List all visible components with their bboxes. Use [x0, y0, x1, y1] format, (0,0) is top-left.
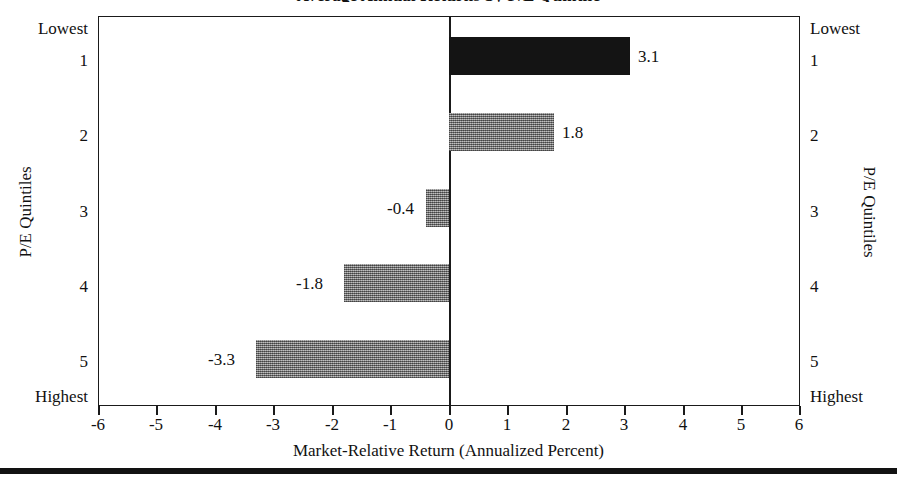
plot-area: [98, 16, 800, 406]
bar-quintile-5: [256, 340, 449, 378]
x-axis-tick-label: -3: [253, 416, 293, 433]
x-axis-tick: [156, 406, 158, 415]
x-axis-tick-label: -1: [370, 416, 410, 433]
x-axis-tick: [566, 406, 568, 415]
bar-quintile-1: [449, 37, 630, 75]
chart-title-clipped: Average Annual Returns by P/E Quintile: [0, 0, 897, 2]
y-axis-title-right: P/E Quintiles: [859, 152, 879, 272]
x-axis-tick: [624, 406, 626, 415]
x-axis-tick-label: 5: [721, 416, 761, 433]
x-axis-tick-label: 2: [546, 416, 586, 433]
bar-value-label-4: -1.8: [296, 275, 323, 292]
x-axis-tick: [741, 406, 743, 415]
bar-quintile-2: [449, 113, 554, 151]
y-axis-title-left: P/E Quintiles: [16, 152, 36, 272]
y-axis-right-label-2: 2: [810, 127, 897, 144]
bar-value-label-1: 3.1: [638, 48, 659, 65]
bar-quintile-4: [344, 264, 449, 302]
y-axis-left-label-1: 1: [0, 52, 88, 69]
y-axis-left-label-3: 3: [0, 203, 88, 220]
y-axis-left-label-2: 2: [0, 127, 88, 144]
x-axis-tick-label: 3: [604, 416, 644, 433]
x-axis-tick: [449, 406, 451, 415]
bar-value-label-5: -3.3: [208, 351, 235, 368]
footer-divider: [0, 468, 897, 474]
x-axis-tick: [390, 406, 392, 415]
x-axis-tick: [273, 406, 275, 415]
bar-value-label-3: -0.4: [387, 200, 414, 217]
y-axis-left-label-lowest: Lowest: [0, 20, 88, 37]
y-axis-right-label-1: 1: [810, 52, 897, 69]
y-axis-left-label-highest: Highest: [0, 388, 88, 405]
y-axis-right-label-5: 5: [810, 353, 897, 370]
x-axis-tick: [683, 406, 685, 415]
x-axis-tick-label: 6: [779, 416, 819, 433]
y-axis-right-label-4: 4: [810, 278, 897, 295]
y-axis-right-label-highest: Highest: [810, 388, 897, 405]
x-axis-tick-label: 4: [663, 416, 703, 433]
y-axis-right-label-lowest: Lowest: [810, 20, 897, 37]
x-axis-tick-label: -6: [78, 416, 118, 433]
y-axis-left-label-4: 4: [0, 278, 88, 295]
y-axis-left-label-5: 5: [0, 353, 88, 370]
x-axis-tick: [799, 406, 801, 415]
x-axis-tick-label: 1: [487, 416, 527, 433]
x-axis-tick-label: -2: [312, 416, 352, 433]
x-axis-tick-label: 0: [429, 416, 469, 433]
bar-quintile-3: [426, 189, 449, 227]
x-axis-tick: [507, 406, 509, 415]
chart-figure: Average Annual Returns by P/E Quintile L…: [0, 0, 897, 488]
zero-baseline: [449, 17, 451, 407]
bar-value-label-2: 1.8: [562, 124, 583, 141]
x-axis-tick-label: -5: [136, 416, 176, 433]
x-axis-tick: [98, 406, 100, 415]
y-axis-right-label-3: 3: [810, 203, 897, 220]
x-axis-tick: [215, 406, 217, 415]
x-axis-title: Market-Relative Return (Annualized Perce…: [0, 441, 897, 461]
x-axis-tick: [332, 406, 334, 415]
x-axis-tick-label: -4: [195, 416, 235, 433]
